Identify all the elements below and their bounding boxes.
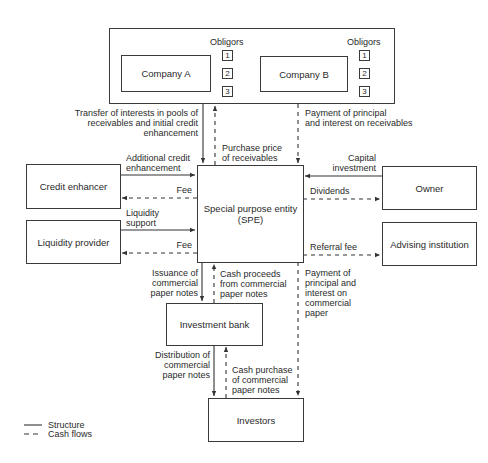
flow-dividends: Dividends [310,186,350,196]
obligors-b-label: Obligors [347,37,381,47]
flow-purchase-price: Purchase price of receivables [222,143,282,163]
spe-label: Special purpose entity (SPE) [204,203,297,225]
obligor-b-2: 2 [359,68,370,79]
owner-label: Owner [416,183,444,194]
investment-bank-box: Investment bank [166,303,263,346]
obligor-a-3: 3 [222,86,233,97]
obligors-a-label: Obligors [210,37,244,47]
obligor-b-1: 1 [359,50,370,61]
company-b-box: Company B [260,56,348,92]
flow-payment-receivables: Payment of principal and interest on rec… [305,108,413,128]
credit-enhancer-box: Credit enhancer [26,164,121,209]
obligor-a-1: 1 [222,50,233,61]
liquidity-provider-box: Liquidity provider [26,220,121,264]
flow-cash-proceeds: Cash proceeds from commercial paper note… [220,269,287,299]
flow-fee-liquidity: Fee [160,240,192,250]
owner-box: Owner [382,166,477,210]
flow-liquidity-support: Liquidity support [126,208,159,228]
advising-institution-label: Advising institution [390,239,469,250]
flow-cash-purchase: Cash purchase of commercial paper notes [232,365,293,395]
company-a-label: Company A [141,68,190,79]
flow-additional-credit: Additional credit enhancement [126,153,190,173]
investment-bank-label: Investment bank [180,319,250,330]
flow-payment-cp: Payment of principal and interest on com… [305,268,356,318]
legend-cashflow-label: Cash flows [48,429,92,439]
flow-distribution-cp: Distribution of commercial paper notes [136,350,210,380]
company-a-box: Company A [121,55,211,92]
spe-box: Special purpose entity (SPE) [197,165,304,263]
credit-enhancer-label: Credit enhancer [40,181,108,192]
investors-label: Investors [237,415,276,426]
flow-capital-investment: Capital investment [320,153,376,173]
flow-referral-fee: Referral fee [310,242,357,252]
company-b-label: Company B [279,69,329,80]
flow-fee-credit: Fee [160,185,192,195]
flow-issuance-cp: Issuance of commercial paper notes [136,268,198,298]
obligor-b-3: 3 [359,86,370,97]
liquidity-provider-label: Liquidity provider [38,237,110,248]
investors-box: Investors [208,398,304,442]
obligor-a-2: 2 [222,68,233,79]
flow-transfer-of-interests: Transfer of interests in pools of receiv… [66,108,198,138]
advising-institution-box: Advising institution [382,222,477,266]
